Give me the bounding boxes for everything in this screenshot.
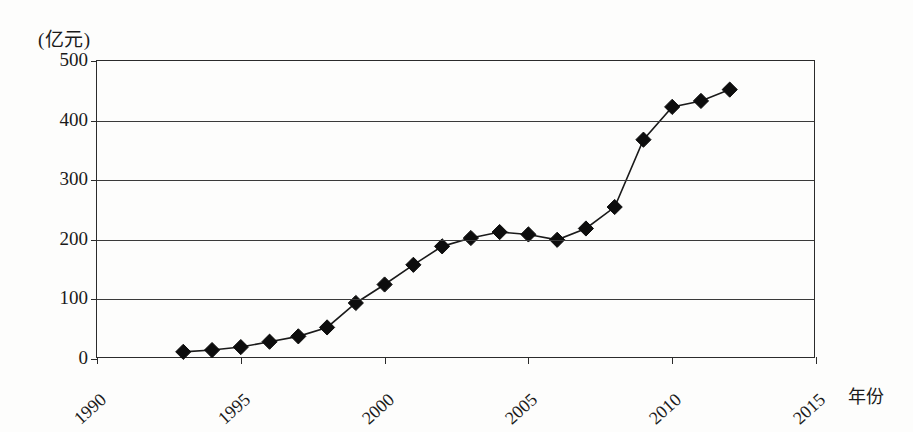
- y-tick-mark-100: [91, 299, 97, 300]
- y-axis-tick-labels: 0100200300400500: [30, 60, 88, 358]
- data-point-marker: [176, 344, 191, 359]
- gridline-y-200: [97, 240, 814, 241]
- plot-area: [96, 60, 815, 358]
- gridline-y-300: [97, 180, 814, 181]
- y-tick-label-500: 500: [60, 49, 89, 71]
- series-line: [97, 61, 816, 359]
- data-point-marker: [377, 277, 392, 292]
- x-tick-mark-2010: [672, 357, 673, 364]
- data-point-marker: [722, 82, 737, 97]
- x-tick-mark-2000: [385, 357, 386, 364]
- chart-figure: (亿元) 0100200300400500 年份 199019952000200…: [0, 0, 913, 432]
- y-tick-label-400: 400: [60, 109, 89, 131]
- y-tick-label-100: 100: [60, 287, 89, 309]
- y-tick-label-0: 0: [79, 347, 89, 369]
- gridline-y-100: [97, 299, 814, 300]
- x-tick-label-2000: 2000: [358, 389, 399, 429]
- data-point-marker: [233, 339, 248, 354]
- data-point-marker: [406, 257, 421, 272]
- x-tick-label-2010: 2010: [645, 389, 686, 429]
- data-point-marker: [204, 342, 219, 357]
- x-tick-label-2005: 2005: [501, 389, 542, 429]
- x-axis-title: 年份: [848, 382, 884, 408]
- y-tick-label-200: 200: [60, 228, 89, 250]
- x-tick-mark-2005: [528, 357, 529, 364]
- data-point-marker: [578, 221, 593, 236]
- x-tick-mark-2015: [816, 357, 817, 364]
- data-point-marker: [693, 93, 708, 108]
- y-tick-mark-400: [91, 121, 97, 122]
- data-point-marker: [492, 224, 507, 239]
- gridline-y-400: [97, 121, 814, 122]
- y-tick-label-300: 300: [60, 168, 89, 190]
- y-tick-mark-300: [91, 180, 97, 181]
- data-point-marker: [607, 199, 622, 214]
- x-tick-mark-1990: [97, 357, 98, 364]
- y-tick-mark-500: [91, 61, 97, 62]
- x-tick-mark-1995: [241, 357, 242, 364]
- data-point-marker: [291, 329, 306, 344]
- x-tick-label-1995: 1995: [214, 389, 255, 429]
- x-tick-label-1990: 1990: [70, 389, 111, 429]
- y-axis-unit-label: (亿元): [38, 24, 91, 51]
- data-point-marker: [435, 239, 450, 254]
- y-tick-mark-200: [91, 240, 97, 241]
- series-polyline: [183, 90, 729, 352]
- data-point-marker: [463, 230, 478, 245]
- x-tick-label-2015: 2015: [789, 389, 830, 429]
- data-point-marker: [262, 334, 277, 349]
